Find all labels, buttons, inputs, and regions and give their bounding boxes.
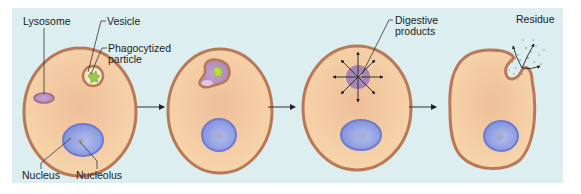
cell-stage-4 — [450, 39, 545, 168]
label-lysosome: Lysosome — [23, 16, 70, 27]
label-residue: Residue — [516, 14, 555, 25]
phagocytosis-diagram — [0, 0, 581, 194]
cell-stage-2 — [168, 49, 272, 173]
cell-stage-3 — [303, 20, 411, 170]
label-digestive-products-line2: products — [395, 26, 435, 37]
lysosome — [34, 93, 54, 103]
label-nucleolus: Nucleolus — [76, 170, 122, 181]
label-vesicle: Vesicle — [107, 16, 140, 27]
label-nucleus: Nucleus — [22, 170, 60, 181]
label-phagocytized-particle-line2: particle — [108, 54, 142, 65]
